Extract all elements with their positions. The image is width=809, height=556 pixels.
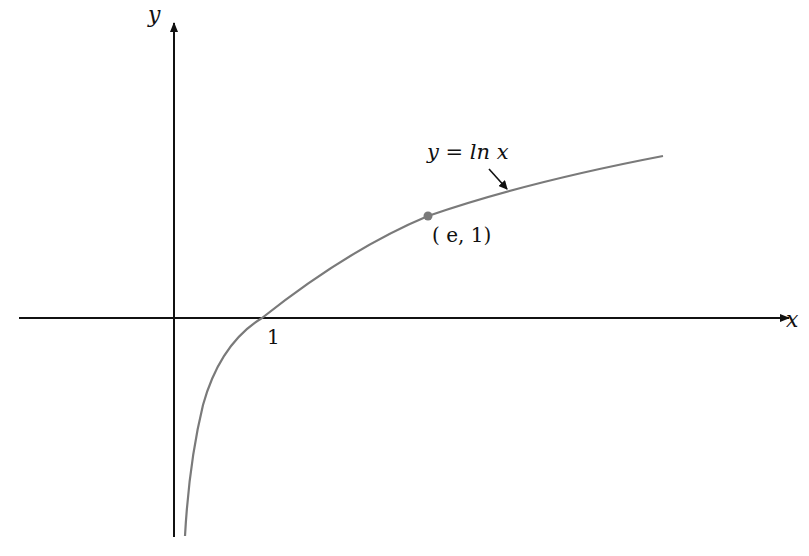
ln-curve [185,156,663,536]
curve-label: y = ln x [427,140,509,164]
point-label: ( e, 1) [432,223,491,247]
plot-area [0,0,809,556]
ln-graph-figure: y x 1 y = ln x ( e, 1) [0,0,809,556]
x-axis-label: x [786,307,798,332]
point-e-1 [424,212,433,221]
curve-label-text: y = ln x [427,140,509,164]
y-axis-label: y [148,2,160,27]
x-tick-label-1: 1 [267,325,280,349]
label-pointer-arrow [489,169,507,189]
